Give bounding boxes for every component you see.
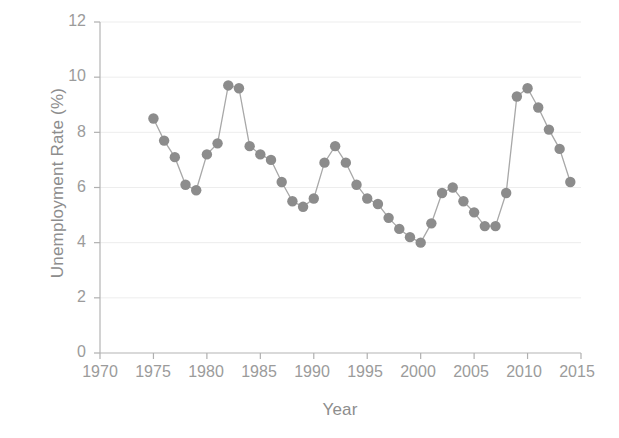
data-point: [191, 185, 201, 195]
y-tick-label-10: 10: [52, 67, 86, 85]
data-point: [319, 157, 329, 167]
x-axis-title: Year: [100, 400, 580, 420]
data-point: [448, 182, 458, 192]
x-tick-label-1985: 1985: [229, 363, 289, 381]
data-point: [383, 213, 393, 223]
unemployment-rate-chart: Unemployment Rate (%) Year 12 10 8 6 4 2…: [0, 0, 619, 438]
data-point: [223, 80, 233, 90]
data-point: [330, 141, 340, 151]
data-point: [298, 202, 308, 212]
data-point: [405, 232, 415, 242]
data-point: [426, 218, 436, 228]
data-point: [544, 124, 554, 134]
data-point: [180, 180, 190, 190]
data-point: [266, 155, 276, 165]
data-markers: [148, 80, 575, 248]
y-tick-label-2: 2: [52, 288, 86, 306]
y-tick-label-8: 8: [52, 123, 86, 141]
data-point: [565, 177, 575, 187]
data-point: [234, 83, 244, 93]
data-point: [287, 196, 297, 206]
data-point: [277, 177, 287, 187]
data-line: [153, 85, 570, 242]
data-point: [212, 138, 222, 148]
data-point: [533, 102, 543, 112]
data-point: [170, 152, 180, 162]
data-point: [458, 196, 468, 206]
footer-artifact-text: [28, 424, 588, 436]
x-tick-label-1975: 1975: [123, 363, 183, 381]
y-tick-label-12: 12: [52, 12, 86, 30]
x-tick-label-1995: 1995: [335, 363, 395, 381]
x-tick-label-1990: 1990: [282, 363, 342, 381]
data-point: [437, 188, 447, 198]
x-tick-label-2010: 2010: [494, 363, 554, 381]
data-point: [501, 188, 511, 198]
data-point: [373, 199, 383, 209]
x-tick-label-2015: 2015: [547, 363, 607, 381]
y-tick-label-6: 6: [52, 178, 86, 196]
data-point: [522, 83, 532, 93]
data-point: [148, 113, 158, 123]
data-point: [202, 149, 212, 159]
data-point: [394, 224, 404, 234]
y-tick-label-0: 0: [52, 343, 86, 361]
data-point: [159, 135, 169, 145]
data-point: [351, 180, 361, 190]
data-point: [512, 91, 522, 101]
data-point: [469, 207, 479, 217]
data-point: [309, 193, 319, 203]
x-tick-label-1970: 1970: [70, 363, 130, 381]
x-tick-label-2005: 2005: [441, 363, 501, 381]
data-point: [554, 144, 564, 154]
data-point: [244, 141, 254, 151]
data-point: [341, 157, 351, 167]
y-tick-label-4: 4: [52, 233, 86, 251]
data-point: [255, 149, 265, 159]
data-point: [480, 221, 490, 231]
data-point: [490, 221, 500, 231]
x-tick-label-1980: 1980: [176, 363, 236, 381]
data-point: [362, 193, 372, 203]
data-point: [415, 237, 425, 247]
x-tick-label-2000: 2000: [388, 363, 448, 381]
